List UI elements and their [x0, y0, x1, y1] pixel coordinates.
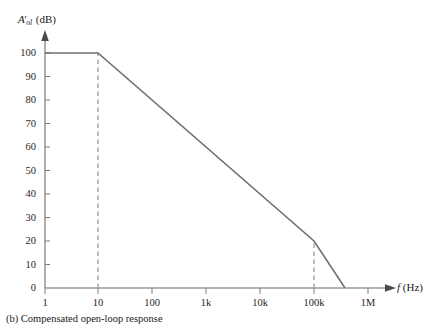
x-tick-label: 1M [361, 298, 376, 309]
y-tick-label: 20 [6, 236, 36, 247]
y-tick-label: 30 [6, 212, 36, 223]
y-tick-label: 40 [6, 189, 36, 200]
figure-caption: (b) Compensated open-loop response [6, 314, 163, 325]
y-tick-label: 80 [6, 95, 36, 106]
y-tick-label: 100 [6, 48, 36, 59]
x-tick-label: 100 [144, 298, 160, 309]
bode-plot-svg [0, 0, 437, 332]
y-axis-arrowhead [41, 30, 49, 41]
y-tick-label: 10 [6, 259, 36, 270]
x-axis-ticks [45, 288, 368, 294]
x-tick-label: 1k [201, 298, 212, 309]
open-loop-gain-curve [45, 53, 345, 288]
x-tick-label: 1 [42, 298, 47, 309]
y-axis-title-unit: (dB) [33, 13, 56, 25]
x-axis-title-unit: (Hz) [400, 281, 423, 293]
y-tick-label: 70 [6, 118, 36, 129]
y-axis-ticks [45, 53, 50, 265]
x-axis-arrowhead [385, 284, 396, 292]
figure-compensated-open-loop-response: A′ol (dB) f (Hz) 100 90 80 70 60 50 40 3… [0, 0, 437, 332]
x-axis-title: f (Hz) [397, 282, 423, 293]
x-tick-label: 10 [93, 298, 104, 309]
y-tick-label: 0 [6, 283, 36, 294]
y-axis-title: A′ol (dB) [18, 14, 56, 25]
x-tick-label: 10k [252, 298, 268, 309]
y-tick-label: 50 [6, 165, 36, 176]
x-tick-label: 100k [304, 298, 325, 309]
y-tick-label: 60 [6, 142, 36, 153]
y-axis-title-subscript: ol [26, 18, 32, 27]
y-tick-label: 90 [6, 71, 36, 82]
